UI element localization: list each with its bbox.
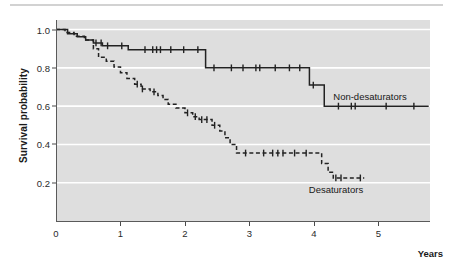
x-axis-line xyxy=(56,221,430,222)
series-label-non-desaturators: Non-desaturators xyxy=(333,91,406,102)
series-label-desaturators: Desaturators xyxy=(309,184,363,195)
y-axis-line xyxy=(56,20,57,222)
series-line xyxy=(56,30,364,178)
survival-chart-figure: Survival probability Years 1.00.80.60.40… xyxy=(0,0,449,269)
plot-canvas xyxy=(0,0,449,269)
